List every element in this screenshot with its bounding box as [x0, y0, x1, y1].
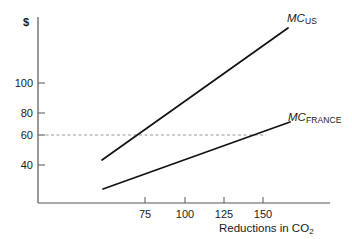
y-tick-label-40: 40: [3, 160, 33, 171]
mc-us-series-label: MCUS: [287, 13, 317, 25]
mc-us-label-main: MC: [287, 12, 305, 24]
x-axis-title-text: Reductions in CO: [219, 222, 309, 234]
x-tick-label-150: 150: [243, 209, 283, 220]
chart-figure: $ 100 80 60 40 75 100 125 150 Reductions…: [0, 0, 352, 239]
mc-france-curve: [103, 122, 290, 189]
x-tick-label-125: 125: [204, 209, 244, 220]
mc-us-label-subscript: US: [305, 16, 317, 26]
x-tick-label-75: 75: [125, 209, 165, 220]
x-tick-label-100: 100: [165, 209, 205, 220]
y-tick-label-80: 80: [3, 108, 33, 119]
x-axis-title-subscript: 2: [309, 227, 313, 236]
mc-us-curve: [102, 28, 288, 160]
y-tick-label-60: 60: [3, 130, 33, 141]
mc-france-series-label: MCFRANCE: [288, 112, 341, 124]
y-axis-unit-label: $: [23, 17, 29, 28]
y-tick-label-100: 100: [3, 78, 33, 89]
x-axis-title: Reductions in CO2: [219, 223, 314, 235]
mc-france-label-main: MC: [288, 111, 306, 123]
mc-france-label-subscript: FRANCE: [306, 115, 342, 125]
